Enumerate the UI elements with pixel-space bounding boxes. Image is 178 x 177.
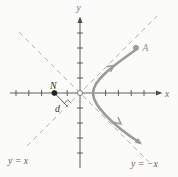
right-angle-mark xyxy=(64,100,71,104)
point-A-label: A xyxy=(142,43,149,53)
x-axis-arrowhead-icon xyxy=(156,90,163,95)
asymptote-label-y-equals-x: y = x xyxy=(7,155,29,166)
y-axis-label: y xyxy=(76,3,82,13)
point-A-dot xyxy=(133,45,139,51)
point-N-label: N xyxy=(49,80,57,91)
lower-branch-direction-arrow-icon xyxy=(114,118,121,124)
asymptote-line-y-equals-x xyxy=(27,16,157,146)
figure-canvas: y x y = x y = −x N d A xyxy=(0,0,178,177)
hyperbola-figure: y x y = x y = −x N d A xyxy=(0,0,178,177)
asymptote-label-y-equals-minus-x: y = −x xyxy=(130,158,158,169)
x-axis-label: x xyxy=(164,89,170,99)
asymptote-line-y-equals-minus-x xyxy=(19,32,149,162)
distance-d-label: d xyxy=(55,103,60,114)
y-axis-arrowhead-icon xyxy=(77,17,82,24)
point-N-dot xyxy=(52,90,58,96)
origin-open-circle xyxy=(78,91,83,96)
